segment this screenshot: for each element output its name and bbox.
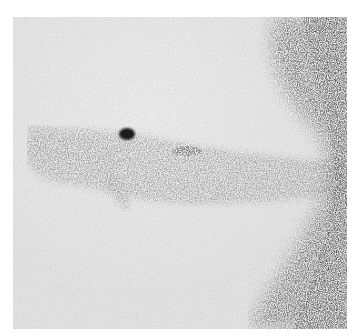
scan-rendering xyxy=(13,17,347,329)
scan-image xyxy=(13,17,347,329)
film-grain xyxy=(13,17,347,329)
image-canvas xyxy=(0,0,356,336)
